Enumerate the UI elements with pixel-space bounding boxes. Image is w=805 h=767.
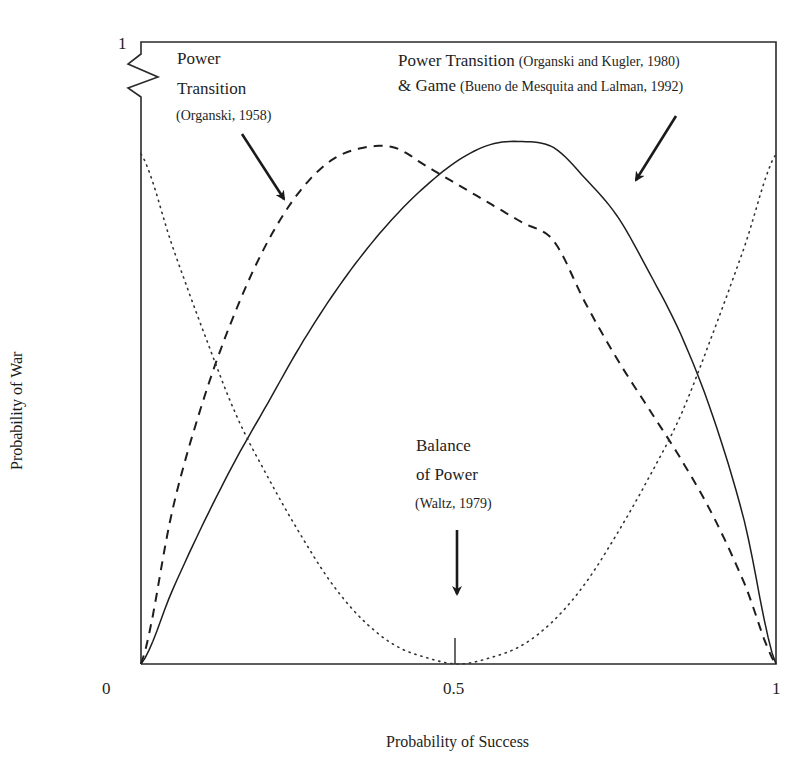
series-dashed-line <box>141 146 776 664</box>
series-solid-line <box>141 141 776 664</box>
x-tick-1: 1 <box>772 679 781 699</box>
annotation-left-line2: Transition <box>177 79 246 99</box>
y-axis-label: Probability of War <box>8 352 26 470</box>
annotation-bottom-line2: of Power <box>416 465 478 485</box>
x-tick-0.5: 0.5 <box>443 679 464 699</box>
annotation-right-main1: Power Transition <box>398 51 515 70</box>
plot-frame <box>128 42 776 664</box>
x-axis-label: Probability of Success <box>386 733 529 751</box>
annotation-bottom-cite: (Waltz, 1979) <box>415 496 492 512</box>
chart-canvas <box>0 0 805 767</box>
arrow-left-icon <box>242 134 284 199</box>
annotation-left-cite: (Organski, 1958) <box>176 108 271 124</box>
series-dotted-line <box>141 154 776 664</box>
annotation-right-cite2: (Bueno de Mesquita and Lalman, 1992) <box>460 79 683 94</box>
annotation-bottom-line1: Balance <box>416 436 471 456</box>
annotation-right-main2: & Game <box>398 76 456 95</box>
annotation-right-cite1: (Organski and Kugler, 1980) <box>519 54 680 69</box>
y-tick-1: 1 <box>118 34 127 54</box>
x-tick-0: 0 <box>102 679 111 699</box>
arrow-right-icon <box>636 116 676 180</box>
annotation-left-line1: Power <box>177 49 220 69</box>
